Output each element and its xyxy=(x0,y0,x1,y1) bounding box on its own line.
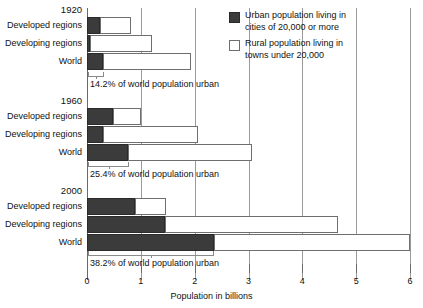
row-label-developed-1960: Developed regions xyxy=(7,108,82,125)
x-tick-label-2: 2 xyxy=(192,276,197,286)
legend-item-rural: Rural population living in towns under 2… xyxy=(229,38,346,61)
brace-1920 xyxy=(88,72,104,77)
x-tick-mark-2 xyxy=(195,264,196,273)
bar-row-2000-developed-regions xyxy=(87,198,410,215)
row-label-developing-2000: Developing regions xyxy=(5,216,82,233)
x-tick-mark-4 xyxy=(302,264,303,273)
x-tick-label-6: 6 xyxy=(407,276,412,286)
group-year-2000: 2000 xyxy=(61,185,82,196)
row-label-developing-1960: Developing regions xyxy=(5,126,82,143)
caption-2000: 38.2% of world population urban xyxy=(90,258,219,268)
x-tick-label-1: 1 xyxy=(138,276,143,286)
bar-segment-urban xyxy=(87,198,135,215)
bar-segment-urban xyxy=(87,234,214,251)
row-label-world-2000: World xyxy=(59,234,82,251)
bar-row-1960-developed-regions xyxy=(87,108,410,125)
bar-row-1960-world xyxy=(87,144,410,161)
brace-2000 xyxy=(88,251,214,256)
chart-legend: Urban population living in cities of 20,… xyxy=(229,10,346,66)
x-tick-mark-0 xyxy=(87,264,88,273)
legend-swatch-rural-icon xyxy=(229,40,240,51)
row-label-column: 1920 Developed regions Developing region… xyxy=(0,0,82,308)
legend-label-rural: Rural population living in towns under 2… xyxy=(245,38,343,61)
caption-1920: 14.2% of world population urban xyxy=(90,79,219,89)
legend-item-urban: Urban population living in cities of 20,… xyxy=(229,10,346,33)
row-label-world-1960: World xyxy=(59,144,82,161)
bar-segment-rural xyxy=(90,35,152,52)
row-label-developing-1920: Developing regions xyxy=(5,35,82,52)
x-tick-label-5: 5 xyxy=(354,276,359,286)
bar-segment-urban xyxy=(87,17,100,34)
legend-swatch-urban-icon xyxy=(229,12,240,23)
bar-segment-urban xyxy=(87,35,90,52)
bar-segment-rural xyxy=(214,234,410,251)
bar-segment-urban xyxy=(87,216,165,233)
bar-segment-urban xyxy=(87,144,128,161)
bar-segment-rural xyxy=(113,108,141,125)
bar-segment-rural xyxy=(103,126,198,143)
x-tick-label-4: 4 xyxy=(300,276,305,286)
x-tick-mark-1 xyxy=(141,264,142,273)
row-label-world-1920: World xyxy=(59,53,82,70)
bar-segment-rural xyxy=(100,17,131,34)
caption-1960: 25.4% of world population urban xyxy=(90,169,219,179)
bar-row-1960-developing-regions xyxy=(87,126,410,143)
chart-container: 1920 Developed regions Developing region… xyxy=(0,0,423,308)
x-tick-label-0: 0 xyxy=(84,276,89,286)
bar-row-2000-world xyxy=(87,234,410,251)
legend-label-urban: Urban population living in cities of 20,… xyxy=(245,10,346,33)
group-year-1920: 1920 xyxy=(61,4,82,15)
x-tick-mark-5 xyxy=(356,264,357,273)
row-label-developed-2000: Developed regions xyxy=(7,198,82,215)
bar-segment-rural xyxy=(128,144,252,161)
row-label-developed-1920: Developed regions xyxy=(7,17,82,34)
bar-segment-rural xyxy=(103,53,191,70)
bar-segment-rural xyxy=(135,198,166,215)
bar-row-2000-developing-regions xyxy=(87,216,410,233)
x-tick-label-3: 3 xyxy=(246,276,251,286)
bar-segment-urban xyxy=(87,126,103,143)
x-axis-title: Population in billions xyxy=(0,291,423,301)
bar-segment-urban xyxy=(87,53,103,70)
brace-1960 xyxy=(88,162,129,167)
bar-segment-urban xyxy=(87,108,113,125)
group-year-1960: 1960 xyxy=(61,95,82,106)
x-tick-mark-3 xyxy=(249,264,250,273)
bar-segment-rural xyxy=(165,216,338,233)
x-tick-mark-6 xyxy=(410,264,411,273)
gridline-6 xyxy=(410,8,411,280)
